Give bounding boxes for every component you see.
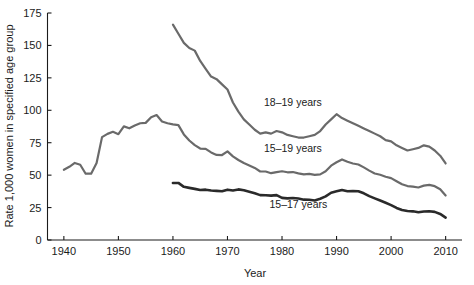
series-lines — [64, 25, 446, 218]
x-axis: 19401950196019701980199020002010 — [48, 236, 463, 257]
y-tick-label: 75 — [29, 137, 41, 149]
series-inline-labels: 18–19 years15–19 years15–17 years — [264, 96, 327, 209]
y-tick-label: 25 — [29, 202, 41, 214]
y-tick-label: 175 — [23, 7, 41, 19]
x-tick-label: 1980 — [270, 245, 294, 257]
series-label-18-19-years: 18–19 years — [264, 96, 322, 108]
y-tick-label: 50 — [29, 169, 41, 181]
y-axis: 0255075100125150175 — [23, 7, 51, 246]
series-label-15-17-years: 15–17 years — [269, 198, 327, 210]
series-line-15-19-years — [64, 115, 446, 195]
x-tick-label: 1960 — [161, 245, 185, 257]
y-tick-label: 0 — [35, 234, 41, 246]
y-tick-label: 100 — [23, 104, 41, 116]
x-tick-label: 1950 — [106, 245, 130, 257]
x-tick-label: 1940 — [52, 245, 76, 257]
x-tick-label: 2010 — [433, 245, 457, 257]
y-tick-label: 125 — [23, 72, 41, 84]
series-label-15-19-years: 15–19 years — [264, 142, 322, 154]
x-axis-title: Year — [244, 267, 267, 279]
x-tick-label: 1970 — [215, 245, 239, 257]
chart-canvas: 0255075100125150175 19401950196019701980… — [0, 0, 474, 285]
teen-birth-rate-line-chart: 0255075100125150175 19401950196019701980… — [0, 0, 474, 285]
x-tick-label: 1990 — [324, 245, 348, 257]
y-tick-label: 150 — [23, 39, 41, 51]
y-axis-title: Rate 1,000 women in specified age group — [3, 24, 15, 227]
x-tick-label: 2000 — [379, 245, 403, 257]
